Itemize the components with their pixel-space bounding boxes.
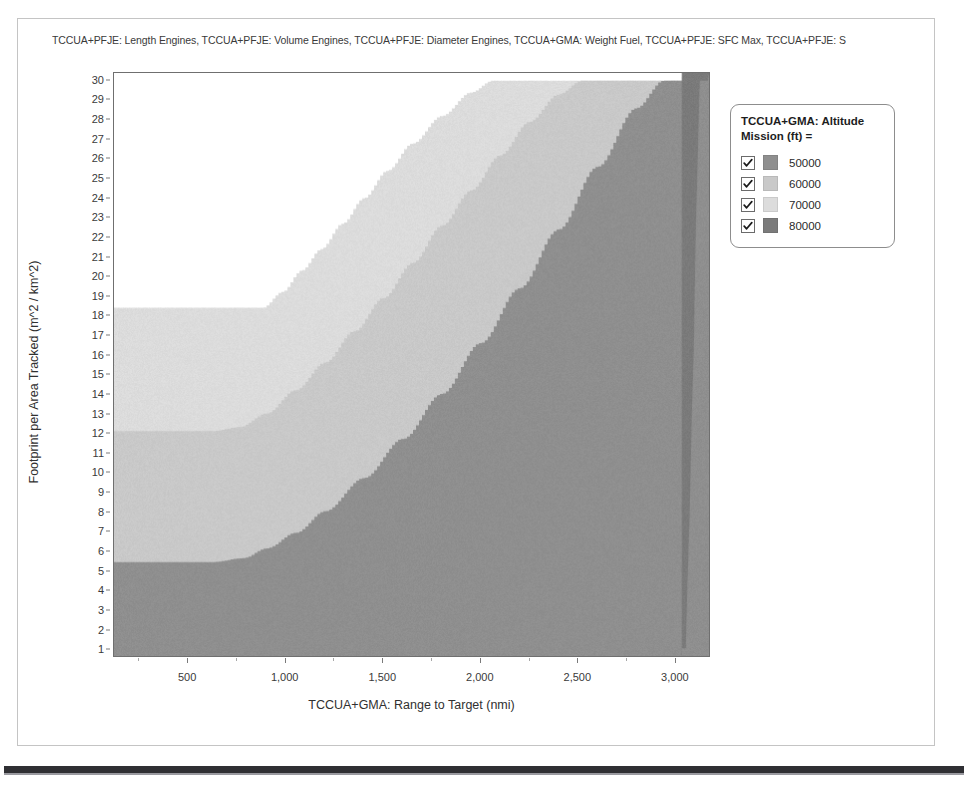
x-axis-title: TCCUA+GMA: Range to Target (nmi) [113,698,710,712]
legend-entry-list: 50000600007000080000 [741,153,884,235]
legend-entry[interactable]: 50000 [741,153,884,172]
y-tick-mark [106,413,110,414]
y-tick-mark [106,550,110,551]
y-tick-mark [106,79,110,80]
y-tick-mark [106,590,110,591]
x-tick-label: 2,500 [564,671,592,683]
y-tick-mark [106,531,110,532]
y-tick-mark [106,217,110,218]
legend-entry[interactable]: 70000 [741,195,884,214]
y-tick-mark [106,511,110,512]
page-bottom-rule [4,766,964,773]
legend-title: TCCUA+GMA: Altitude Mission (ft) = [741,114,884,144]
y-tick-mark [106,570,110,571]
legend-entry-label: 50000 [789,157,821,169]
y-tick-label: 2 [98,624,104,636]
y-tick-label: 11 [93,447,104,459]
legend-checkbox[interactable] [741,156,755,170]
y-tick-mark [106,256,110,257]
y-tick-mark [106,609,110,610]
y-tick-label: 12 [92,427,104,439]
legend-color-swatch [763,218,778,233]
legend-checkbox[interactable] [741,177,755,191]
y-tick-label: 7 [98,525,104,537]
x-tick-label: 1,000 [271,671,299,683]
y-tick-mark [106,433,110,434]
y-tick-mark [106,119,110,120]
x-tick-label: 500 [178,671,196,683]
x-minor-tick-mark [431,658,432,661]
chart-title: TCCUA+PFJE: Length Engines, TCCUA+PFJE: … [52,34,914,52]
y-axis-title: Footprint per Area Tracked (m^2 / km^2) [27,142,41,602]
x-axis-ticks: 5001,0001,5002,0002,5003,000 [113,658,710,688]
y-tick-mark [106,295,110,296]
y-tick-label: 25 [92,172,104,184]
y-tick-mark [106,276,110,277]
y-tick-mark [106,315,110,316]
y-tick-label: 20 [92,270,104,282]
y-tick-label: 14 [92,388,104,400]
y-tick-label: 9 [98,486,104,498]
y-tick-label: 22 [92,231,104,243]
y-tick-label: 26 [92,152,104,164]
legend-color-swatch [763,176,778,191]
legend-checkbox[interactable] [741,219,755,233]
y-axis-ticks: 1234567891011121314151617181920212223242… [72,72,110,657]
legend-checkbox[interactable] [741,198,755,212]
y-tick-mark [106,649,110,650]
x-minor-tick-mark [333,658,334,661]
y-tick-label: 16 [92,349,104,361]
y-tick-mark [106,452,110,453]
y-tick-label: 13 [92,408,104,420]
y-tick-mark [106,629,110,630]
y-tick-label: 19 [92,290,104,302]
y-tick-label: 3 [98,604,104,616]
x-minor-tick-mark [529,658,530,661]
y-tick-label: 23 [92,211,104,223]
x-tick-mark [577,658,578,663]
x-minor-tick-mark [138,658,139,661]
x-minor-tick-mark [236,658,237,661]
y-tick-label: 29 [92,93,104,105]
legend-entry[interactable]: 60000 [741,174,884,193]
x-tick-mark [480,658,481,663]
y-tick-label: 17 [92,329,104,341]
legend-entry[interactable]: 80000 [741,216,884,235]
y-tick-mark [106,178,110,179]
y-tick-mark [106,354,110,355]
y-tick-mark [106,236,110,237]
y-tick-mark [106,158,110,159]
y-tick-label: 10 [92,466,104,478]
legend-panel[interactable]: TCCUA+GMA: Altitude Mission (ft) = 50000… [730,104,895,248]
y-tick-label: 8 [98,506,104,518]
legend-entry-label: 70000 [789,199,821,211]
y-tick-mark [106,138,110,139]
plot-area[interactable] [113,72,710,657]
y-tick-label: 5 [98,565,104,577]
x-tick-label: 2,000 [466,671,494,683]
y-tick-label: 6 [98,545,104,557]
legend-color-swatch [763,197,778,212]
x-tick-mark [187,658,188,663]
page-bottom-rule-shadow [4,773,964,775]
x-minor-tick-mark [626,658,627,661]
y-tick-label: 15 [92,368,104,380]
x-tick-mark [285,658,286,663]
y-tick-mark [106,99,110,100]
legend-entry-label: 80000 [789,220,821,232]
y-tick-mark [106,197,110,198]
y-tick-label: 30 [92,74,104,86]
y-tick-label: 18 [92,309,104,321]
x-tick-label: 3,000 [661,671,689,683]
y-tick-label: 24 [92,192,104,204]
x-tick-mark [382,658,383,663]
y-tick-label: 28 [92,113,104,125]
y-tick-mark [106,393,110,394]
legend-entry-label: 60000 [789,178,821,190]
y-tick-mark [106,472,110,473]
y-tick-label: 21 [92,251,104,263]
y-tick-mark [106,374,110,375]
x-tick-label: 1,500 [368,671,396,683]
contour-canvas [114,73,709,656]
y-tick-label: 27 [92,133,104,145]
